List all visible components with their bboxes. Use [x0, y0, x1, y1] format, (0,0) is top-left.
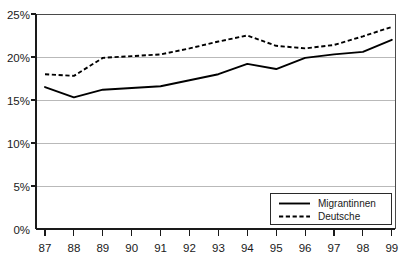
y-tick-marks: [31, 14, 36, 186]
x-axis-labels: 87 88 89 90 91 92 93 94 95 96 97 98 99: [39, 242, 399, 254]
legend-label-migrantinnen: Migrantinnen: [318, 198, 376, 209]
series-line-deutsche: [45, 27, 392, 76]
chart-plot-svg: 25% 20% 15% 10% 5% 0% 87 88 8: [0, 0, 404, 258]
x-label-90: 90: [125, 242, 138, 254]
line-chart: 25% 20% 15% 10% 5% 0% 87 88 8: [0, 0, 404, 258]
y-label-10: 10%: [7, 138, 30, 150]
x-label-94: 94: [241, 242, 254, 254]
x-label-91: 91: [154, 242, 167, 254]
x-label-89: 89: [96, 242, 109, 254]
y-label-20: 20%: [7, 52, 30, 64]
data-series: [45, 27, 392, 98]
x-label-96: 96: [299, 242, 312, 254]
y-label-5: 5%: [13, 181, 30, 193]
y-label-25: 25%: [7, 9, 30, 21]
x-tick-marks: [45, 229, 392, 236]
x-label-99: 99: [385, 242, 398, 254]
x-label-95: 95: [270, 242, 283, 254]
chart-legend[interactable]: Migrantinnen Deutsche: [271, 194, 392, 225]
y-label-0: 0%: [13, 224, 30, 236]
y-gridlines: [36, 57, 395, 186]
x-label-93: 93: [212, 242, 225, 254]
series-line-migrantinnen: [45, 40, 392, 98]
y-axis-labels: 25% 20% 15% 10% 5% 0%: [7, 9, 30, 236]
x-label-97: 97: [328, 242, 341, 254]
x-label-87: 87: [39, 242, 52, 254]
x-label-92: 92: [183, 242, 196, 254]
x-label-88: 88: [68, 242, 81, 254]
x-label-98: 98: [357, 242, 370, 254]
legend-label-deutsche: Deutsche: [318, 211, 361, 222]
y-label-15: 15%: [7, 95, 30, 107]
